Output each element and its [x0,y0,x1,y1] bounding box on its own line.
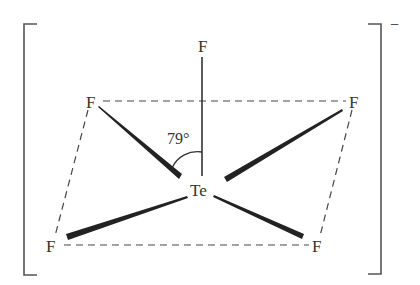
angle-arc [172,152,202,168]
charge-label: − [390,16,399,33]
atom-f-upper-left: F [86,93,95,112]
base-edge-right [320,110,352,236]
atom-f-upper-right: F [349,93,358,112]
tef5-structure-diagram: − 79° F F F F F Te [0,0,420,285]
left-bracket [24,24,37,275]
atom-te-central: Te [190,181,207,200]
base-edge-left [55,110,88,236]
wedge-bond-lower-left [66,196,188,240]
atom-f-lower-left: F [46,237,55,256]
angle-label: 79° [167,130,189,147]
wedge-bond-upper-right [224,109,343,182]
right-bracket [368,24,381,274]
atom-f-lower-right: F [312,237,321,256]
wedge-bond-lower-right [213,195,304,239]
atom-f-axial: F [198,37,207,56]
